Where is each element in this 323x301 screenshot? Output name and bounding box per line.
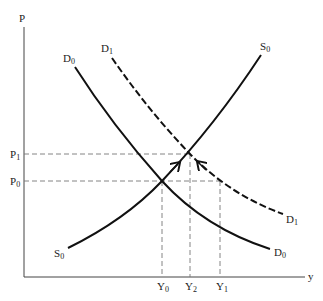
y2-label: Y2 [185,280,197,294]
y0-label: Y0 [157,280,169,294]
x-axis-label: y [308,270,314,282]
demand-curve-d0 [75,67,270,249]
d0-end-label: D0 [274,246,286,260]
demand-curve-d1 [112,58,283,214]
d1-end-label: D1 [286,213,298,227]
p1-label: P1 [10,148,20,162]
supply-curve-s0 [68,55,261,248]
demand-movement-arrow-icon [199,163,206,170]
y1-label: Y1 [216,280,228,294]
d1-top-label: D1 [101,42,113,56]
p0-label: P0 [10,175,20,189]
s0-top-label: S0 [260,40,270,54]
supply-movement-arrow-icon [170,164,178,172]
supply-demand-diagram: P y P1 P0 Y0 Y2 Y1 D0 D0 D1 D1 S0 S0 [0,0,323,301]
d0-top-label: D0 [63,52,75,66]
y-axis-label: P [19,12,25,24]
s0-end-label: S0 [54,247,64,261]
